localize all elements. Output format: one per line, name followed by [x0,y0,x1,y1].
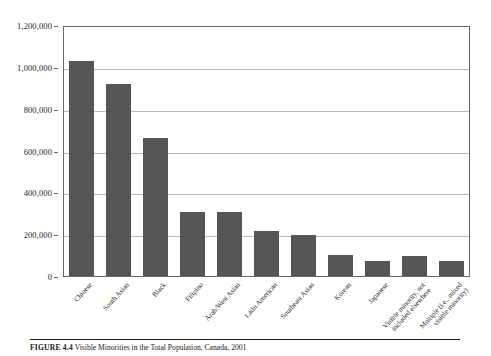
bar [402,256,426,276]
x-tick-label: Korean [332,281,352,302]
bar [180,212,204,276]
caption-divider [30,339,460,340]
y-tick-mark [54,193,58,194]
y-tick-mark [54,26,58,27]
x-axis: ChineseSouth AsianBlackFilipinoArab/West… [63,277,470,352]
y-tick-label: 600,000 [24,147,52,157]
x-tick-label: Japanese [366,281,389,305]
y-tick-mark [54,152,58,153]
x-tick-label: Latin American [242,281,278,320]
bar [291,235,315,276]
x-tick-label: Filipino [183,281,204,303]
bar [328,255,352,276]
y-tick-mark [54,110,58,111]
bar [217,212,241,276]
bar [254,231,278,276]
y-tick-mark [54,277,58,278]
x-tick-label: Black [150,281,167,299]
y-tick-label: 0 [48,272,52,282]
bar [365,261,389,276]
y-tick-mark [54,235,58,236]
y-tick-mark [54,68,58,69]
y-tick-label: 800,000 [24,105,52,115]
y-tick-label: 1,000,000 [17,63,52,73]
bar [106,84,130,276]
x-tick-label: Chinese [72,281,94,304]
bar [69,61,93,276]
figure-caption: FIGURE 4.4 Visible Minorities in the Tot… [30,343,470,353]
caption-figure-number: FIGURE 4.4 [30,343,73,352]
y-tick-label: 200,000 [24,230,52,240]
bar [143,138,167,276]
bar-series [63,26,470,276]
y-tick-label: 400,000 [24,188,52,198]
caption-figure-title: Visible Minorities in the Total Populati… [75,343,247,352]
x-tick-label: South Asian [101,281,130,312]
figure-container: 0200,000400,000600,000800,0001,000,0001,… [0,0,491,356]
y-axis: 0200,000400,000600,000800,0001,000,0001,… [0,26,58,277]
x-tick-label: Arab/West Asian [203,281,242,323]
y-tick-label: 1,200,000 [17,21,52,31]
bar [439,261,463,276]
x-tick-label: Southeast Asian [279,281,316,321]
